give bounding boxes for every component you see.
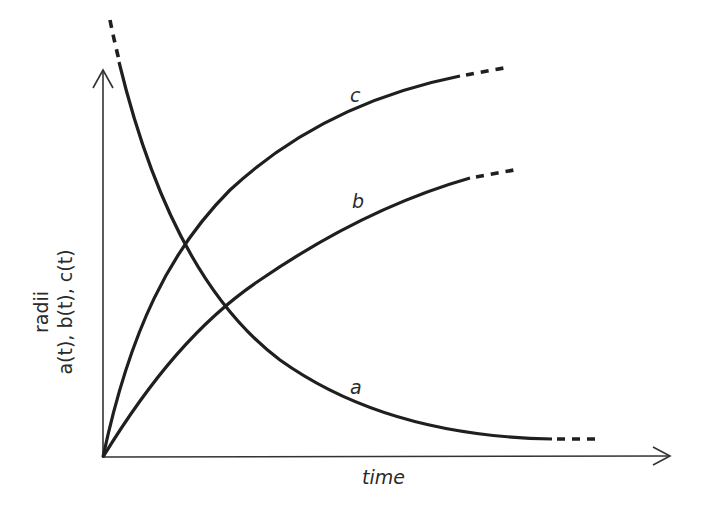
- axes: [93, 70, 670, 465]
- curve-b-line: [103, 178, 470, 457]
- x-axis: [102, 456, 670, 457]
- curve-a-label: a: [350, 376, 362, 398]
- curve-b: [103, 170, 514, 457]
- curve-c: [103, 68, 504, 457]
- curve-c-dashed-end: [466, 68, 504, 75]
- curve-b-label: b: [352, 190, 364, 212]
- curve-b-dashed-end: [476, 170, 514, 177]
- radii-vs-time-diagram: c b a time radii a(t), b(t), c(t): [0, 0, 707, 510]
- y-axis-label-line1: radii: [30, 291, 52, 333]
- x-axis-label: time: [362, 466, 405, 488]
- curve-a-dashed-start: [110, 20, 119, 60]
- y-axis-label-line2: a(t), b(t), c(t): [54, 249, 76, 374]
- curve-c-label: c: [350, 84, 361, 106]
- y-axis-label: radii a(t), b(t), c(t): [30, 249, 76, 374]
